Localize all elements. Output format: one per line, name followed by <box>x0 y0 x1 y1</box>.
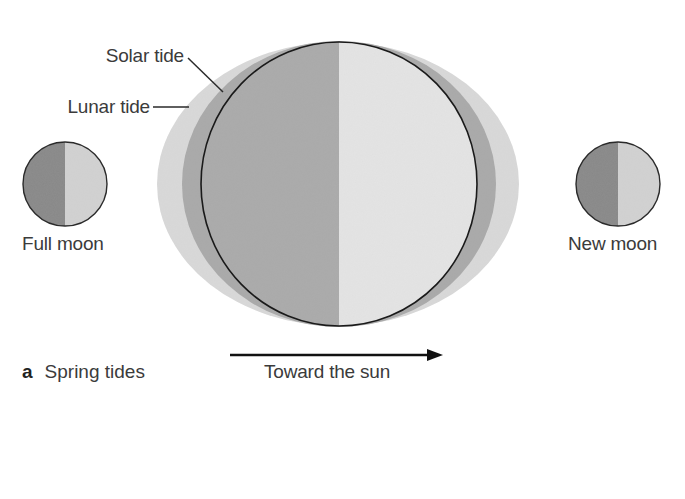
figure-caption: aSpring tides <box>22 362 145 381</box>
toward-sun-label: Toward the sun <box>264 362 390 381</box>
solar-tide-label: Solar tide <box>106 46 184 65</box>
lunar-tide-label: Lunar tide <box>67 97 150 116</box>
full-moon-label: Full moon <box>22 234 104 253</box>
full-moon-icon <box>20 140 110 230</box>
solar-tide-leader-line <box>188 58 223 92</box>
new-moon-label: New moon <box>568 234 657 253</box>
arrow-right-icon <box>230 349 443 361</box>
panel-letter: a <box>22 361 33 382</box>
new-moon-icon <box>574 140 664 230</box>
panel-title: Spring tides <box>45 361 145 382</box>
